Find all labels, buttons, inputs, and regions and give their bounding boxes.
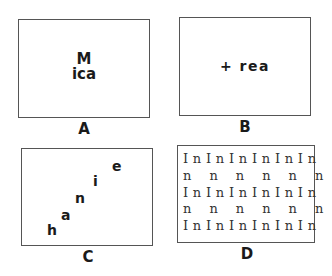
panel-a-line-2: ica [19,67,149,82]
panel-d-label: D [241,247,253,262]
panel-c-letter-h: h [47,223,57,237]
panel-d-box: I n I n I n I n I n I n n n n n n n I n … [177,145,315,243]
panel-b-box: + rea [179,17,311,116]
panel-d-row-2: n n n n n n [183,168,310,185]
panel-c-label: C [82,250,93,265]
panel-d-row-5: I n I n I n I n I n I n [183,218,310,235]
panel-d-grid: I n I n I n I n I n I n n n n n n n I n … [183,151,310,235]
panel-a-box: M ica [18,19,150,118]
panel-a-text: M ica [19,52,149,82]
panel-d-row-3: I n I n I n I n I n I n [183,185,310,202]
panel-c-box: h a n i e [21,148,153,246]
panel-d-row-1: I n I n I n I n I n I n [183,151,310,168]
panel-b-label: B [239,120,250,135]
panel-c-letter-a: a [61,208,70,222]
panel-c-letter-e: e [112,159,122,173]
panel-b-text: + rea [180,58,310,74]
panel-a-label: A [78,122,90,137]
panel-c-letter-n: n [75,191,85,205]
panel-c-letter-i: i [93,174,98,188]
panel-d-row-4: n n n n n n [183,201,310,218]
